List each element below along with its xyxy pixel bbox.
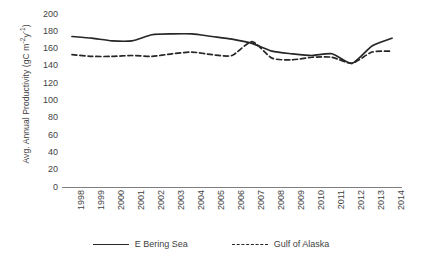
y-axis-tick-label: 60 [28, 131, 58, 140]
legend-line-swatch-icon [232, 244, 268, 245]
x-axis-tick-label: 2009 [297, 190, 306, 236]
x-axis-tick-label: 2001 [137, 190, 146, 236]
y-axis-tick-label: 80 [28, 113, 58, 122]
x-axis-tick-labels: 1998199920002001200220032004200520062007… [62, 190, 402, 236]
x-axis-tick-label: 2003 [177, 190, 186, 236]
y-axis-tick-label: 120 [28, 79, 58, 88]
chart-legend: E Bering SeaGulf of Alaska [0, 236, 422, 252]
legend-item[interactable]: E Bering Sea [93, 239, 188, 249]
x-axis-tick-label: 1998 [77, 190, 86, 236]
x-axis-tick-label: 2014 [397, 190, 406, 236]
x-axis-tick-label: 2007 [257, 190, 266, 236]
line-chart: Avg. Annual Productivity (gC m-2y-1) 200… [0, 0, 422, 255]
legend-item-label: E Bering Sea [135, 239, 188, 249]
series-line-e-bering-sea [72, 34, 392, 64]
y-axis-title-sup-2: -1 [19, 27, 26, 33]
y-axis-tick-label: 200 [28, 10, 58, 19]
y-axis-tick-label: 180 [28, 27, 58, 36]
y-axis-tick-label: 160 [28, 44, 58, 53]
x-axis-tick-label: 2012 [357, 190, 366, 236]
x-axis-tick-label: 1999 [97, 190, 106, 236]
y-axis-tick-labels: 200180160140120100806040200 [28, 0, 58, 200]
legend-item[interactable]: Gulf of Alaska [232, 239, 330, 249]
x-axis-tick-label: 2010 [317, 190, 326, 236]
plot-area [62, 14, 402, 187]
series-lines [62, 14, 402, 187]
y-axis-tick-label: 100 [28, 96, 58, 105]
x-axis-tick-label: 2011 [337, 190, 346, 236]
y-axis-title-sup-1: -2 [19, 38, 26, 44]
y-axis-tick-label: 0 [28, 183, 58, 192]
x-axis-tick-label: 2013 [377, 190, 386, 236]
y-axis-tick-label: 40 [28, 148, 58, 157]
x-axis-tick-label: 2002 [157, 190, 166, 236]
legend-line-swatch-icon [93, 244, 129, 245]
x-axis-tick-label: 2004 [197, 190, 206, 236]
y-axis-tick-label: 140 [28, 61, 58, 70]
x-axis-tick-label: 2000 [117, 190, 126, 236]
x-axis-line [62, 187, 402, 188]
x-axis-tick-label: 2005 [217, 190, 226, 236]
x-axis-tick-label: 2006 [237, 190, 246, 236]
y-axis-tick-label: 20 [28, 165, 58, 174]
x-axis-tick-label: 2008 [277, 190, 286, 236]
legend-item-label: Gulf of Alaska [274, 239, 330, 249]
